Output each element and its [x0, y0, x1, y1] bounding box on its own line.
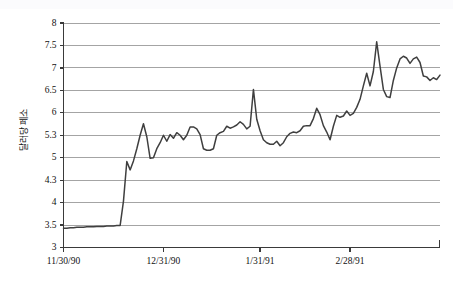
- y-tick-label: 3: [52, 242, 57, 252]
- y-tick-label: 4.3: [45, 175, 57, 185]
- y-tick-label: 7.5: [45, 40, 57, 50]
- x-tick-label: 1/31/91: [246, 256, 275, 266]
- x-tick-label: 12/31/90: [147, 256, 181, 266]
- y-tick-label: 5.3: [45, 130, 57, 140]
- line-chart: 33.544.355.366.577.58 11/30/9012/31/901/…: [0, 0, 453, 282]
- y-tick-label: 7: [52, 63, 57, 73]
- x-tick-label: 2/28/91: [336, 256, 365, 266]
- y-tick-label: 8: [52, 18, 57, 28]
- chart-background: [0, 0, 453, 282]
- chart-container: 33.544.355.366.577.58 11/30/9012/31/901/…: [0, 0, 453, 282]
- y-tick-label: 6.5: [45, 85, 57, 95]
- y-tick-label: 4: [52, 197, 57, 207]
- x-tick-label: 11/30/90: [47, 256, 81, 266]
- y-tick-label: 6: [52, 107, 57, 117]
- y-tick-label: 5: [52, 152, 57, 162]
- scan-artifact-band: [0, 0, 453, 9]
- y-axis-title: 달러당 페소: [18, 109, 29, 152]
- y-tick-label: 3.5: [45, 220, 57, 230]
